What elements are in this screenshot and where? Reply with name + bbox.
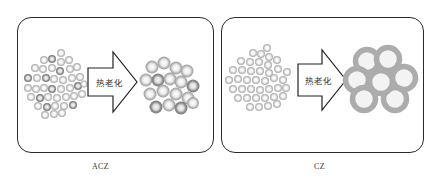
acz-arrow-label: 热老化 — [96, 78, 123, 88]
cz-heat-aging-arrow-icon: 热老化 — [298, 50, 346, 110]
acz-before-cluster — [24, 49, 88, 119]
acz-after-cluster — [140, 57, 200, 115]
cz-before-cluster — [225, 44, 291, 111]
caption-cz: CZ — [314, 162, 325, 171]
caption-acz: ACZ — [92, 162, 109, 171]
cz-after-cluster — [346, 48, 416, 111]
cz-arrow-label: 热老化 — [305, 76, 332, 86]
acz-heat-aging-arrow-icon: 热老化 — [88, 52, 137, 112]
diagram-canvas: 热老化 — [0, 0, 433, 181]
